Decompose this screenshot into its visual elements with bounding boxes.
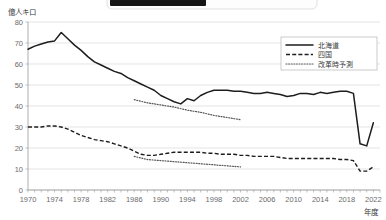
x-tick-label-1970: 1970	[20, 195, 37, 204]
x-tick-label-2002: 2002	[232, 195, 249, 204]
y-tick-label-30: 30	[15, 123, 23, 132]
legend-label-0: 北海道	[318, 41, 339, 50]
x-tick-label-2022: 2022	[365, 195, 382, 204]
series-line-2-branch-1	[134, 156, 240, 167]
x-tick-label-1990: 1990	[152, 195, 169, 204]
y-axis-title: 億人キロ	[8, 7, 36, 17]
y-tick-label-10: 10	[15, 165, 23, 174]
line-chart: 01020304050607080 1970197419781982198619…	[0, 0, 386, 220]
y-tick-label-20: 20	[15, 144, 23, 153]
chart-container: 01020304050607080 1970197419781982198619…	[0, 0, 386, 220]
series-line-2-branch-0	[134, 100, 240, 120]
x-tick-label-1978: 1978	[73, 195, 90, 204]
redacted-overlay	[107, 0, 317, 9]
x-tick-label-2014: 2014	[312, 195, 329, 204]
x-axis-title: 年度	[364, 207, 379, 217]
y-tick-label-60: 60	[15, 60, 23, 69]
y-tick-label-0: 0	[19, 186, 23, 195]
x-tick-label-1998: 1998	[206, 195, 223, 204]
legend-label-1: 四国	[318, 51, 332, 59]
x-tick-label-1974: 1974	[46, 195, 63, 204]
x-tick-label-1986: 1986	[126, 195, 143, 204]
x-axis-tick-labels: 1970197419781982198619901994199820022006…	[20, 195, 382, 204]
x-tick-label-1982: 1982	[99, 195, 116, 204]
y-tick-label-80: 80	[15, 18, 23, 27]
redaction-bar	[110, 0, 206, 6]
x-tick-label-2018: 2018	[338, 195, 355, 204]
chart-legend: 北海道四国改革時予測	[281, 37, 377, 70]
x-tick-label-1994: 1994	[179, 195, 196, 204]
series-line-1	[28, 126, 373, 171]
legend-label-2: 改革時予測	[318, 60, 353, 69]
y-axis-tick-labels: 01020304050607080	[15, 18, 23, 195]
y-tick-label-50: 50	[15, 81, 23, 90]
y-tick-label-70: 70	[15, 39, 23, 48]
x-tick-label-2010: 2010	[285, 195, 302, 204]
x-tick-label-2006: 2006	[259, 195, 276, 204]
y-tick-label-40: 40	[15, 102, 23, 111]
